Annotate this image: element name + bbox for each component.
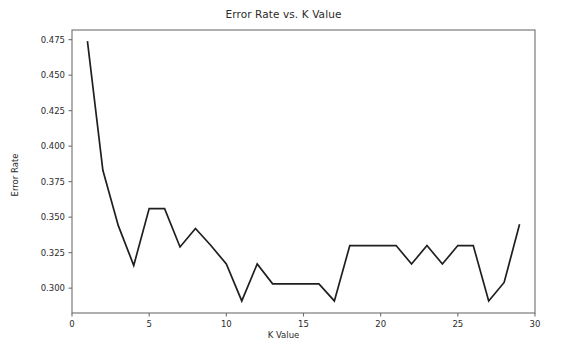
y-tick-label: 0.425 bbox=[41, 106, 65, 116]
x-tick-label: 10 bbox=[221, 319, 232, 329]
y-tick-group: 0.3000.3250.3500.3750.4000.4250.4500.475 bbox=[41, 35, 72, 293]
y-tick-label: 0.325 bbox=[41, 248, 65, 258]
y-tick-label: 0.450 bbox=[41, 70, 65, 80]
error-rate-line bbox=[87, 41, 519, 301]
x-tick-label: 5 bbox=[146, 319, 151, 329]
chart-figure: Error Rate vs. K Value Error Rate K Valu… bbox=[0, 0, 567, 350]
x-tick-label: 30 bbox=[530, 319, 541, 329]
y-tick-label: 0.375 bbox=[41, 177, 65, 187]
x-tick-label: 20 bbox=[375, 319, 386, 329]
x-tick-label: 0 bbox=[69, 319, 74, 329]
y-tick-label: 0.475 bbox=[41, 35, 65, 45]
x-tick-label: 15 bbox=[298, 319, 309, 329]
y-tick-label: 0.350 bbox=[41, 212, 65, 222]
plot-frame bbox=[72, 30, 535, 313]
plot-area: 0.3000.3250.3500.3750.4000.4250.4500.475… bbox=[0, 0, 567, 350]
y-tick-label: 0.400 bbox=[41, 141, 65, 151]
y-tick-label: 0.300 bbox=[41, 283, 65, 293]
x-tick-group: 051015202530 bbox=[69, 313, 540, 329]
x-tick-label: 25 bbox=[452, 319, 463, 329]
